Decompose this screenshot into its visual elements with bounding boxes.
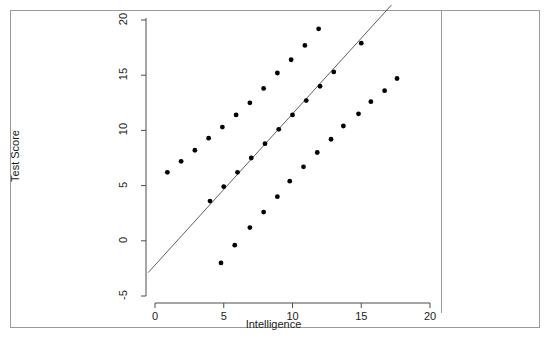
data-point [179, 159, 184, 164]
data-point [301, 164, 306, 169]
data-point [316, 26, 321, 31]
data-point [359, 41, 364, 46]
data-point [221, 184, 226, 189]
data-point [287, 179, 292, 184]
regression-line [148, 5, 391, 273]
data-point [331, 69, 336, 74]
data-point [219, 260, 224, 265]
data-point [356, 111, 361, 116]
y-tick-label: -5 [117, 284, 129, 306]
data-point [247, 100, 252, 105]
data-point [315, 150, 320, 155]
y-tick-label: 5 [117, 174, 129, 196]
y-tick-label: 15 [117, 63, 129, 85]
data-point [206, 136, 211, 141]
data-point [263, 141, 268, 146]
data-point [318, 84, 323, 89]
data-point [192, 148, 197, 153]
y-tick-label: 20 [117, 8, 129, 30]
data-point [247, 225, 252, 230]
data-point [276, 127, 281, 132]
data-point [382, 88, 387, 93]
data-point [220, 125, 225, 130]
data-point [275, 71, 280, 76]
data-point [234, 113, 239, 118]
y-tick-label: 10 [117, 118, 129, 140]
data-point [165, 170, 170, 175]
data-point [368, 99, 373, 104]
data-point [341, 124, 346, 129]
data-point [249, 156, 254, 161]
data-point [304, 98, 309, 103]
x-axis-title: Intelligence [0, 318, 547, 330]
data-point [208, 199, 213, 204]
scatter-plot [0, 0, 547, 338]
axis-layer [141, 18, 430, 308]
chart-screenshot: -50510152005101520 Intelligence Test Sco… [0, 0, 547, 338]
data-point [290, 113, 295, 118]
data-point [395, 76, 400, 81]
data-points-layer [165, 26, 399, 265]
data-point [232, 243, 237, 248]
data-point [289, 57, 294, 62]
y-axis-title: Test Score [9, 111, 21, 201]
data-point [235, 170, 240, 175]
y-tick-label: 0 [117, 229, 129, 251]
data-point [275, 194, 280, 199]
data-point [261, 210, 266, 215]
data-point [302, 43, 307, 48]
data-point [261, 86, 266, 91]
data-point [329, 137, 334, 142]
